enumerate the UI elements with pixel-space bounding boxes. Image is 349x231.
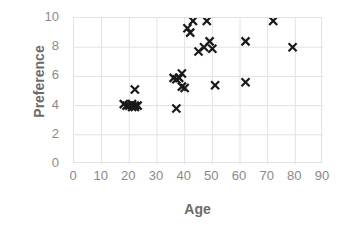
data-point (242, 37, 250, 45)
plot-area (73, 17, 322, 163)
y-tick-label: 6 (8, 67, 66, 83)
scatter-chart: Preference 0246810 0102030405060708090 A… (0, 0, 349, 231)
data-point (269, 18, 277, 25)
grid-lines (74, 18, 323, 164)
data-point (242, 78, 250, 86)
data-point (189, 18, 197, 25)
plot-canvas (74, 18, 323, 164)
data-point (131, 86, 139, 94)
data-point-markers (120, 18, 297, 113)
y-tick-label: 2 (8, 126, 66, 142)
y-tick-label: 10 (8, 9, 66, 25)
x-tick-label: 90 (302, 166, 342, 186)
data-point (203, 18, 211, 25)
y-axis-tick-labels: 0246810 (0, 17, 66, 163)
y-tick-label: 8 (8, 38, 66, 54)
x-axis-title: Age (73, 198, 322, 220)
y-tick-label: 4 (8, 97, 66, 113)
x-axis-tick-labels: 0102030405060708090 (73, 166, 322, 186)
